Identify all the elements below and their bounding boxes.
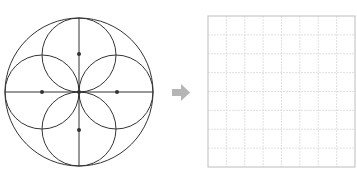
center-point — [77, 52, 81, 56]
center-point — [77, 90, 81, 94]
figure-svg — [0, 0, 357, 171]
diagram-canvas: Geometric construction: a large circle c… — [0, 0, 357, 171]
arrow-right-icon — [172, 84, 190, 101]
center-point — [40, 90, 44, 94]
empty-grid — [208, 16, 355, 167]
center-point — [77, 128, 81, 132]
center-point — [115, 90, 119, 94]
circle-pattern — [5, 18, 153, 166]
